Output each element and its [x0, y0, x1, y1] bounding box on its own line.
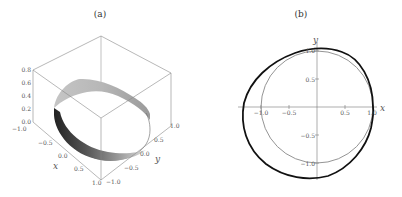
ribbon-front-surface	[54, 108, 146, 161]
svg-text:0.6: 0.6	[21, 79, 31, 86]
x-tick-labels: −1.0 −0.5 0.5 1.0	[254, 109, 377, 116]
svg-text:−0.5: −0.5	[124, 164, 139, 171]
panel-a-3d-plot: (a)	[0, 0, 200, 197]
svg-text:0.8: 0.8	[21, 66, 31, 73]
svg-text:−1.0: −1.0	[254, 109, 269, 116]
svg-text:0.0: 0.0	[58, 152, 68, 159]
z-axis-ticks: 0.8 0.6 0.4 0.2 0.0	[21, 66, 31, 125]
svg-text:−1.0: −1.0	[12, 125, 27, 132]
y-axis-label: y	[312, 35, 319, 45]
svg-text:1.0: 1.0	[170, 122, 180, 129]
panel-b-2d-plot: (b) −1.0 −0.5 0.5 1.0 1.0	[200, 0, 402, 197]
svg-text:−0.5: −0.5	[282, 109, 297, 116]
svg-text:0.0: 0.0	[140, 150, 150, 157]
parametric-plot-2d: −1.0 −0.5 0.5 1.0 1.0 0.5 −0.5 −1.0 x y	[200, 0, 402, 197]
svg-text:−0.5: −0.5	[300, 132, 315, 139]
svg-text:0.5: 0.5	[74, 165, 84, 172]
svg-text:1.0: 1.0	[305, 47, 315, 54]
svg-text:0.4: 0.4	[21, 92, 31, 99]
svg-text:1.0: 1.0	[92, 179, 102, 186]
svg-text:1.0: 1.0	[367, 109, 377, 116]
ribbon-back-surface	[54, 79, 150, 120]
x-axis-label: x	[380, 103, 385, 113]
surface-plot-3d: 0.8 0.6 0.4 0.2 0.0 −1.0 −0.5 0.0 0.5 1.…	[0, 0, 200, 197]
svg-text:0.2: 0.2	[21, 105, 31, 112]
y-axis-label: y	[154, 154, 161, 164]
svg-text:−1.0: −1.0	[106, 178, 121, 185]
x-axis-label: x	[53, 161, 58, 171]
svg-text:0.5: 0.5	[154, 136, 164, 143]
svg-text:0.0: 0.0	[21, 118, 31, 125]
svg-text:−1.0: −1.0	[300, 160, 315, 167]
svg-text:−0.5: −0.5	[38, 139, 53, 146]
svg-text:0.5: 0.5	[340, 109, 350, 116]
svg-text:0.5: 0.5	[305, 76, 315, 83]
